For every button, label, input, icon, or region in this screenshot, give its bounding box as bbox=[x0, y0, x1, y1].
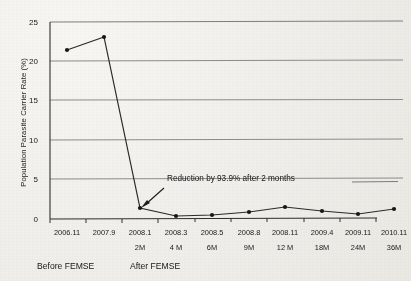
x-tick-label-4: 2008.5 bbox=[201, 228, 224, 237]
x-tick-label-1: 2007.9 bbox=[93, 228, 116, 237]
annotation-arrow-icon bbox=[141, 188, 164, 208]
group-label-after-femse: After FEMSE bbox=[130, 261, 180, 271]
x-tick-label-0: 2006.11 bbox=[54, 228, 80, 237]
x-tick-label-9: 2010.11 bbox=[381, 228, 407, 237]
x-tick-label-3: 2008.3 bbox=[165, 228, 188, 237]
annotation-reduction-text: Reduction by 93.9% after 2 months bbox=[167, 174, 295, 183]
axes bbox=[50, 22, 377, 219]
x-tick-sublabel-7: 18M bbox=[315, 243, 329, 252]
plot-canvas bbox=[0, 0, 411, 281]
data-series-line bbox=[67, 37, 394, 216]
x-tick-label-2: 2008.1 bbox=[129, 228, 152, 237]
x-tick-sublabel-3: 4 M bbox=[170, 243, 182, 252]
x-tick-label-5: 2008.8 bbox=[238, 228, 261, 237]
x-tick-label-8: 2009.11 bbox=[345, 228, 371, 237]
x-tick-sublabel-4: 6M bbox=[207, 243, 217, 252]
x-tick-sublabel-5: 9M bbox=[244, 243, 254, 252]
x-tick-sublabel-9: 36M bbox=[387, 243, 401, 252]
x-tick-label-6: 2008.11 bbox=[272, 228, 298, 237]
legend-line-marker bbox=[352, 182, 398, 183]
x-tick-label-7: 2009.4 bbox=[311, 228, 334, 237]
gridlines bbox=[50, 21, 403, 179]
x-tick-sublabel-6: 12 M bbox=[277, 243, 293, 252]
x-tick-sublabel-8: 24M bbox=[351, 243, 365, 252]
data-markers bbox=[65, 35, 396, 218]
x-tick-sublabel-2: 2M bbox=[135, 243, 145, 252]
parasite-carrier-rate-line-chart: Population Parasite Carrier Rate (%) 25 … bbox=[0, 0, 411, 281]
group-label-before-femse: Before FEMSE bbox=[37, 261, 94, 271]
